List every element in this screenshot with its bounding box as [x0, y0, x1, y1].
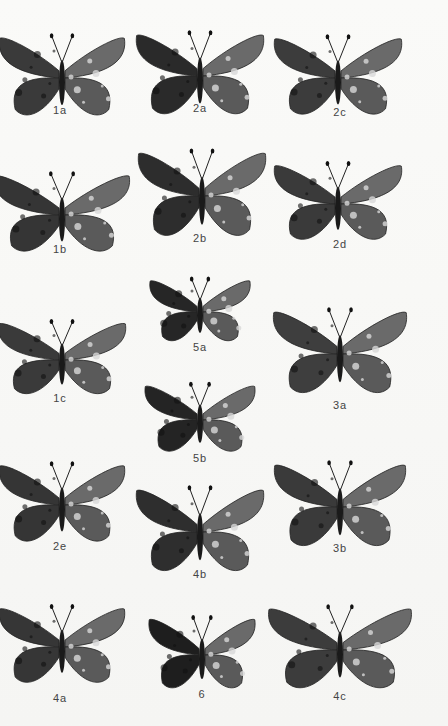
specimen-label: 2b — [193, 232, 207, 244]
butterfly-specimen — [136, 148, 268, 244]
butterfly-icon — [271, 307, 409, 401]
specimen-label: 4b — [193, 568, 207, 580]
butterfly-icon — [143, 382, 257, 458]
butterfly-icon — [272, 460, 408, 554]
butterfly-icon — [0, 461, 127, 549]
butterfly-icon — [0, 319, 128, 401]
butterfly-specimen — [266, 604, 414, 696]
specimen-label: 2e — [53, 540, 67, 552]
butterfly-specimen — [0, 461, 127, 549]
specimen-label: 2c — [333, 106, 347, 118]
specimen-label: 6 — [198, 688, 205, 700]
butterfly-specimen — [0, 319, 128, 401]
specimen-label: 5b — [193, 452, 207, 464]
specimen-label: 1c — [53, 392, 67, 404]
butterfly-specimen — [272, 460, 408, 554]
butterfly-specimen — [272, 161, 404, 247]
butterfly-specimen — [0, 604, 127, 690]
butterfly-icon — [148, 277, 252, 347]
specimen-label: 3b — [333, 542, 347, 554]
specimen-plate: 1a2a2c1b2b2d5a1c3a5b2e4b3b4a64c — [0, 0, 448, 726]
specimen-label: 4c — [333, 690, 347, 702]
specimen-label: 2d — [333, 238, 347, 250]
specimen-label: 4a — [53, 692, 67, 704]
butterfly-icon — [147, 615, 257, 695]
butterfly-icon — [0, 604, 127, 690]
butterfly-specimen — [271, 307, 409, 401]
butterfly-specimen — [148, 277, 252, 347]
specimen-label: 1b — [53, 243, 67, 255]
butterfly-specimen — [147, 615, 257, 695]
specimen-label: 1a — [53, 104, 67, 116]
butterfly-specimen — [143, 382, 257, 458]
specimen-label: 2a — [193, 102, 207, 114]
butterfly-icon — [134, 485, 266, 579]
specimen-label: 3a — [333, 399, 347, 411]
specimen-label: 5a — [193, 341, 207, 353]
butterfly-specimen — [134, 485, 266, 579]
butterfly-icon — [272, 161, 404, 247]
butterfly-icon — [266, 604, 414, 696]
butterfly-icon — [136, 148, 268, 244]
